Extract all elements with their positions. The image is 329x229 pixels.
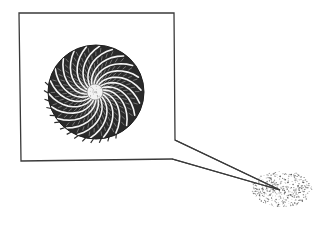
microfossil-illustration: [0, 0, 329, 229]
sediment-speck-icon: [252, 171, 312, 207]
